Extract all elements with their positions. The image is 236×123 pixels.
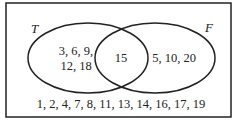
- set-t-label: T: [31, 21, 39, 36]
- set-f-label: F: [204, 20, 214, 35]
- set-f-only-elements: 5, 10, 20: [152, 51, 196, 65]
- set-t-only-line-2: 12, 18: [60, 59, 91, 73]
- outside-elements: 1, 2, 4, 7, 8, 11, 13, 14, 16, 17, 19: [37, 97, 205, 111]
- venn-diagram: T F 3, 6, 9, 12, 18 15 5, 10, 20 1, 2, 4…: [0, 0, 236, 123]
- set-t-only-line-1: 3, 6, 9,: [59, 44, 93, 58]
- intersection-elements: 15: [115, 51, 128, 65]
- set-t-ellipse: [28, 23, 148, 93]
